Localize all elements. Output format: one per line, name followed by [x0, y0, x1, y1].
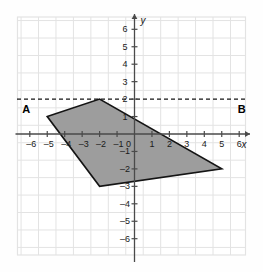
y-tick-label: 2 — [122, 95, 127, 104]
x-tick-label: –2 — [96, 139, 106, 148]
label-B: B — [238, 103, 246, 114]
x-tick-label: 2 — [167, 139, 172, 148]
origin-label: 0 — [126, 139, 131, 148]
y-tick-label: 4 — [122, 60, 127, 69]
y-tick-label: 1 — [122, 112, 127, 121]
label-A: A — [22, 103, 30, 114]
y-tick-label: 6 — [122, 25, 127, 34]
x-tick-label: –4 — [61, 139, 71, 148]
y-tick-label: –5 — [120, 217, 130, 226]
y-tick-label: –2 — [120, 164, 130, 173]
y-tick-label: –1 — [120, 147, 130, 156]
x-tick-label: –6 — [26, 139, 36, 148]
y-tick-label: –4 — [120, 199, 130, 208]
y-tick-label: 5 — [122, 42, 127, 51]
x-axis-name: x — [242, 140, 247, 150]
x-tick-label: –3 — [79, 139, 89, 148]
x-tick-label: –5 — [44, 139, 54, 148]
x-tick-label: 4 — [202, 139, 207, 148]
x-tick-label: 1 — [149, 139, 154, 148]
x-tick-label: 3 — [184, 139, 189, 148]
y-tick-label: –3 — [120, 182, 130, 191]
coordinate-plane-figure: –6–5–4–3–2–1123456654321–1–2–3–4–5–60xyA… — [0, 0, 263, 272]
y-axis-name: y — [141, 16, 146, 26]
y-tick-label: 3 — [122, 77, 127, 86]
graph-canvas — [0, 0, 263, 272]
x-axis-arrow — [245, 131, 250, 137]
x-tick-label: 5 — [219, 139, 224, 148]
y-tick-label: –6 — [120, 234, 130, 243]
